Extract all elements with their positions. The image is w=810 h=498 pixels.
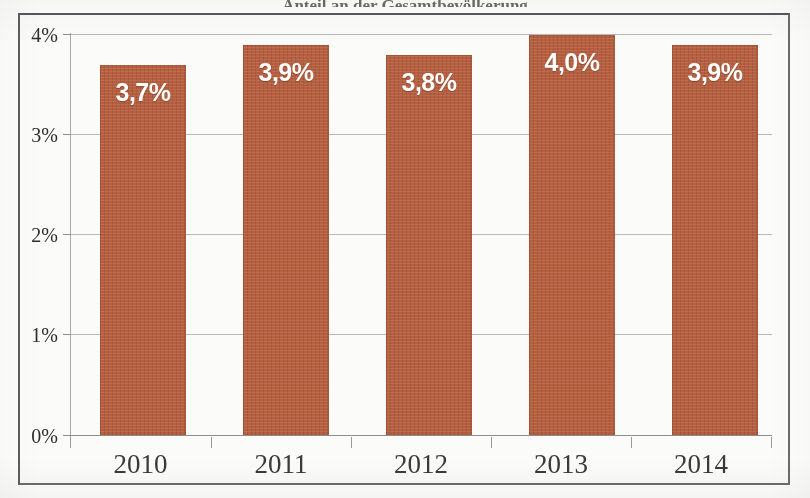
bar-2011[interactable]: 3,9% — [243, 45, 329, 435]
x-tick-3 — [491, 437, 492, 448]
bar-label-2013: 4,0% — [529, 49, 615, 75]
bar-label-2010: 3,7% — [100, 79, 186, 105]
x-axis-label-2010: 2010 — [70, 448, 211, 480]
y-axis-label-4: 4% — [0, 25, 58, 45]
x-tick-5 — [771, 437, 772, 448]
y-axis-label-3: 3% — [0, 125, 58, 145]
x-axis-label-2013: 2013 — [491, 448, 631, 480]
x-tick-1 — [211, 437, 212, 448]
gridline-4 — [70, 34, 772, 35]
x-axis-label-2014: 2014 — [631, 448, 771, 480]
bar-2012[interactable]: 3,8% — [386, 55, 472, 435]
y-axis-label-0: 0% — [0, 426, 58, 446]
bar-2013[interactable]: 4,0% — [529, 35, 615, 435]
bar-2014[interactable]: 3,9% — [672, 45, 758, 435]
bar-label-2011: 3,9% — [243, 59, 329, 85]
bar-2010[interactable]: 3,7% — [100, 65, 186, 435]
y-tick-3 — [63, 134, 71, 135]
y-tick-0 — [63, 435, 71, 436]
gridline-0 — [70, 435, 772, 436]
y-tick-4 — [63, 34, 71, 35]
y-axis-label-2: 2% — [0, 225, 58, 245]
y-tick-1 — [63, 334, 71, 335]
x-axis-label-2012: 2012 — [351, 448, 491, 480]
x-axis-label-2011: 2011 — [211, 448, 351, 480]
y-axis-label-1: 1% — [0, 325, 58, 345]
chart-page: Anteil an der Gesamtbevölkerung 0% 1% 2%… — [0, 0, 810, 498]
y-axis-line — [70, 33, 71, 437]
x-tick-0 — [70, 437, 71, 448]
x-tick-4 — [631, 437, 632, 448]
x-tick-2 — [351, 437, 352, 448]
bar-label-2012: 3,8% — [386, 69, 472, 95]
bar-label-2014: 3,9% — [672, 59, 758, 85]
chart-title-remnant: Anteil an der Gesamtbevölkerung — [0, 0, 810, 7]
y-tick-2 — [63, 234, 71, 235]
